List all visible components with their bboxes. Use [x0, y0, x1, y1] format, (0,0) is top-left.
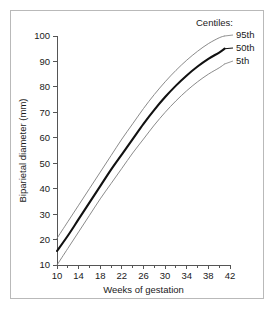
figure-container: 102030405060708090100101418222630343842 …	[0, 0, 278, 313]
x-axis-tick-label: 10	[52, 270, 63, 281]
centile-curves-group	[57, 36, 225, 265]
x-axis-tick-label: 18	[95, 270, 106, 281]
y-axis-tick-label: 50	[39, 158, 50, 169]
y-axis-tick-label: 10	[39, 259, 50, 270]
legend-label-50th: 50th	[236, 42, 255, 53]
chart-labels-group: Centiles:95th50th5thWeeks of gestationBi…	[17, 17, 255, 295]
biparietal-diameter-chart: 102030405060708090100101418222630343842 …	[0, 0, 278, 313]
legend-leader-line-50th	[225, 48, 233, 49]
x-axis-tick-label: 34	[181, 270, 192, 281]
x-axis-tick-label: 26	[138, 270, 149, 281]
x-axis-tick-label: 22	[117, 270, 128, 281]
centile-curve-50th	[57, 49, 225, 251]
y-axis-title: Biparietal diameter (mm)	[17, 99, 28, 203]
x-axis-tick-label: 14	[73, 270, 84, 281]
axes-group: 102030405060708090100101418222630343842	[34, 30, 235, 281]
legend-title: Centiles:	[196, 17, 233, 28]
x-axis-tick-label: 30	[160, 270, 171, 281]
y-axis-tick-label: 90	[39, 56, 50, 67]
centile-curve-5th	[57, 64, 225, 265]
y-axis-tick-label: 100	[34, 30, 50, 41]
y-axis-tick-label: 20	[39, 234, 50, 245]
legend-leader-line-95th	[225, 35, 233, 36]
y-axis-tick-label: 70	[39, 107, 50, 118]
legend-leader-line-5th	[225, 61, 233, 64]
y-axis-tick-label: 60	[39, 132, 50, 143]
y-axis-tick-label: 80	[39, 81, 50, 92]
x-axis-tick-label: 38	[203, 270, 214, 281]
x-axis-tick-label: 42	[225, 270, 236, 281]
legend-label-95th: 95th	[236, 29, 255, 40]
y-axis-tick-label: 30	[39, 209, 50, 220]
legend-label-5th: 5th	[236, 55, 249, 66]
y-axis-tick-label: 40	[39, 183, 50, 194]
x-axis-title: Weeks of gestation	[103, 284, 184, 295]
